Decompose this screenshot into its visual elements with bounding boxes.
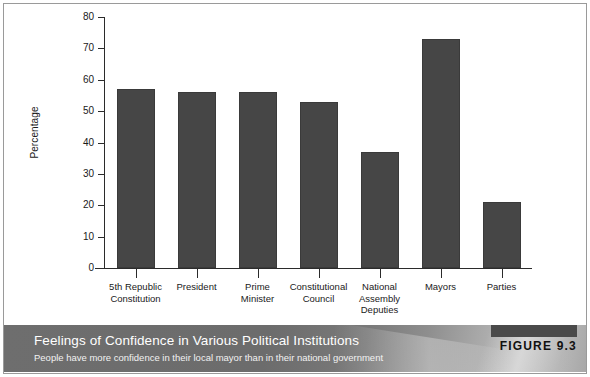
x-axis-tick: [441, 269, 442, 278]
x-axis-label-line: 5th Republic: [105, 281, 166, 293]
y-axis-tick: [98, 48, 105, 49]
y-axis-title: Percentage: [29, 68, 40, 198]
y-axis-tick: [98, 111, 105, 112]
x-axis-label: NationalAssemblyDeputies: [349, 281, 410, 316]
x-axis-label-line: Deputies: [349, 304, 410, 316]
x-axis-tick: [319, 269, 320, 278]
x-axis-label-line: Mayors: [410, 281, 471, 293]
y-axis-tick: [98, 237, 105, 238]
bar: [422, 39, 460, 268]
y-axis-tick-label: 0: [74, 263, 94, 273]
y-axis-tick: [98, 17, 105, 18]
y-axis-tick-label: 80: [74, 12, 94, 22]
bar: [239, 92, 277, 268]
caption-title: Feelings of Confidence in Various Politi…: [34, 333, 359, 348]
y-axis-tick-label: 20: [74, 200, 94, 210]
bar: [178, 92, 216, 268]
x-axis-label-line: Parties: [471, 281, 532, 293]
x-axis-label-line: Constitutional: [288, 281, 349, 293]
bar: [483, 202, 521, 268]
x-axis-label: Parties: [471, 281, 532, 293]
y-axis-tick: [98, 143, 105, 144]
x-axis-label: 5th RepublicConstitution: [105, 281, 166, 304]
y-axis-tick-label: 50: [74, 106, 94, 116]
bar: [117, 89, 155, 268]
y-axis-tick: [98, 80, 105, 81]
x-axis-tick: [380, 269, 381, 278]
x-axis-label-line: Prime: [227, 281, 288, 293]
caption-subtitle: People have more confidence in their loc…: [34, 352, 383, 363]
bar: [300, 102, 338, 268]
x-axis-label: ConstitutionalCouncil: [288, 281, 349, 304]
y-axis-tick-label: 10: [74, 232, 94, 242]
x-axis-label-line: Assembly: [349, 293, 410, 305]
x-axis-label: President: [166, 281, 227, 293]
x-axis-tick: [258, 269, 259, 278]
x-axis-tick: [197, 269, 198, 278]
y-axis-tick-label: 40: [74, 138, 94, 148]
x-axis-label-line: Minister: [227, 293, 288, 305]
x-axis-label: Mayors: [410, 281, 471, 293]
y-axis-tick: [98, 174, 105, 175]
x-axis-tick: [502, 269, 503, 278]
x-axis-label-line: President: [166, 281, 227, 293]
figure-caption-bar: Feelings of Confidence in Various Politi…: [4, 325, 586, 372]
y-axis-tick-label: 70: [74, 43, 94, 53]
figure-number-label: FIGURE 9.3: [500, 339, 577, 353]
y-axis-tick-label: 30: [74, 169, 94, 179]
figure-number-tab: [491, 325, 577, 337]
x-axis-label-line: Constitution: [105, 293, 166, 305]
figure-container: Percentage 01020304050607080 5th Republi…: [0, 0, 590, 377]
y-axis-tick-label: 60: [74, 75, 94, 85]
bar-chart-plot-area: Percentage 01020304050607080 5th Republi…: [0, 0, 590, 320]
y-axis-tick: [98, 268, 105, 269]
x-axis-label-line: Council: [288, 293, 349, 305]
x-axis-label: PrimeMinister: [227, 281, 288, 304]
bar: [361, 152, 399, 268]
x-axis-label-line: National: [349, 281, 410, 293]
y-axis-tick: [98, 205, 105, 206]
x-axis-line: [95, 268, 532, 269]
x-axis-tick: [136, 269, 137, 278]
